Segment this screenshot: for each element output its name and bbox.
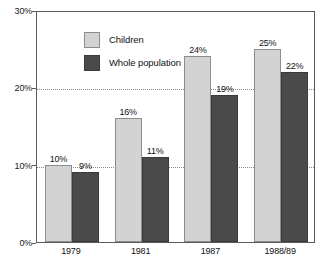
bar-value-label: 22% [286,61,303,71]
bar-value-label: 10% [50,154,67,164]
x-axis-label: 1987 [201,246,220,256]
legend-swatch-whole-population-icon [84,55,100,71]
bar-value-label: 11% [147,146,164,156]
bar-value-label: 25% [259,38,276,48]
x-axis-label: 1981 [131,246,150,256]
bar: 10% [45,165,72,242]
y-axis-label: 20% [15,83,32,93]
legend-label-children: Children [109,34,144,45]
plot-area: 10%9%16%11%24%19%25%22% Children Whole p… [36,11,315,243]
legend-item-children: Children [84,30,181,49]
legend-item-whole-population: Whole population [84,53,181,72]
bar: 19% [211,95,238,242]
bar-value-label: 24% [189,45,206,55]
x-axis-label: 1988/89 [265,246,296,256]
bar: 24% [184,56,211,242]
y-axis-label: 0% [19,238,32,248]
x-axis-label: 1979 [61,246,80,256]
bar: 25% [254,49,281,242]
bar: 22% [281,72,308,242]
legend: Children Whole population [84,30,181,76]
bar-group: 24%19% [177,12,247,242]
y-axis-label: 30% [15,6,32,16]
bar-value-label: 9% [79,161,92,171]
legend-swatch-children-icon [84,32,100,48]
bar: 11% [142,157,169,242]
bar: 9% [72,172,99,242]
bar-value-label: 16% [119,107,136,117]
legend-label-whole-population: Whole population [109,57,181,68]
bar-group: 25%22% [246,12,316,242]
bar-value-label: 19% [216,84,233,94]
bar: 16% [115,118,142,242]
bar-chart: 30%20%10%0% 10%9%16%11%24%19%25%22% Chil… [0,0,326,265]
y-axis-label: 10% [15,161,32,171]
